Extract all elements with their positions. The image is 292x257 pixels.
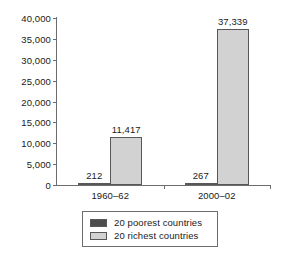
y-axis-tick-label: 25,000 (21, 75, 57, 86)
legend-label: 20 poorest countries (114, 217, 202, 228)
y-axis-tick-label: 0 (46, 180, 57, 191)
y-axis-tick-label: 35,000 (21, 33, 57, 44)
y-axis-tick-label: 30,000 (21, 54, 57, 65)
y-axis-tick-label: 40,000 (21, 13, 57, 24)
legend-swatch-richest (90, 232, 107, 240)
x-axis-category-label: 1960–62 (91, 190, 129, 201)
bar-value-label: 37,339 (218, 16, 248, 27)
x-axis-tick-mark (164, 185, 165, 189)
legend-item: 20 richest countries (90, 229, 211, 242)
y-axis-tick-label: 10,000 (21, 138, 57, 149)
legend-swatch-poorest (90, 219, 107, 227)
y-axis-tick-label: 15,000 (21, 117, 57, 128)
chart-legend: 20 poorest countries20 richest countries (82, 211, 218, 247)
y-axis-tick-label: 5,000 (27, 159, 57, 170)
bar-value-label: 267 (193, 170, 209, 181)
legend-item: 20 poorest countries (90, 216, 211, 229)
bar-value-label: 212 (86, 170, 102, 181)
plot-area: 05,00010,00015,00020,00025,00030,00035,0… (57, 18, 270, 185)
bar-poorest-0 (78, 183, 110, 185)
legend-label: 20 richest countries (114, 230, 198, 241)
chart-figure: 05,00010,00015,00020,00025,00030,00035,0… (0, 0, 292, 257)
bar-value-label: 11,417 (112, 124, 141, 135)
x-axis-tick-mark (270, 185, 271, 189)
bar-richest-1 (217, 29, 249, 185)
bar-richest-0 (110, 137, 142, 185)
x-axis-category-label: 2000–02 (198, 190, 236, 201)
y-axis-tick-label: 20,000 (21, 96, 57, 107)
bar-poorest-1 (185, 183, 217, 185)
